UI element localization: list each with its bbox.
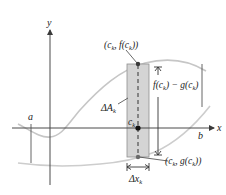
height-label: f(ck) − g(ck) bbox=[153, 80, 198, 91]
b-label: b bbox=[198, 130, 203, 141]
top-point-label: (ck, f(ck)) bbox=[104, 40, 138, 51]
area-between-curves-diagram: y x a b (ck, f(ck)) f(ck) − g(ck) ΔAk ck… bbox=[0, 0, 226, 195]
bottom-point-label: (ck, g(ck)) bbox=[165, 156, 201, 167]
curve-f bbox=[18, 60, 206, 137]
top-point-leader bbox=[126, 50, 137, 63]
width-bracket bbox=[127, 163, 149, 171]
point-ck bbox=[135, 125, 140, 130]
a-label: a bbox=[28, 111, 33, 122]
area-label: ΔAk bbox=[100, 102, 116, 114]
point-f-ck bbox=[136, 62, 140, 66]
y-axis-label: y bbox=[46, 17, 52, 28]
x-axis-label: x bbox=[216, 122, 222, 133]
area-leader bbox=[118, 98, 128, 104]
bottom-point-leader bbox=[139, 157, 168, 161]
point-g-ck bbox=[136, 155, 140, 159]
width-label: Δxk bbox=[128, 173, 142, 185]
